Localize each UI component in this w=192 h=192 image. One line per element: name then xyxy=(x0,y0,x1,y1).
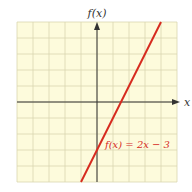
y-axis-label: f(x) xyxy=(87,7,107,20)
function-annotation: f(x) = 2x − 3 xyxy=(104,139,170,150)
chart: x f(x) f(x) = 2x − 3 xyxy=(0,0,192,192)
x-axis-label: x xyxy=(184,96,191,109)
